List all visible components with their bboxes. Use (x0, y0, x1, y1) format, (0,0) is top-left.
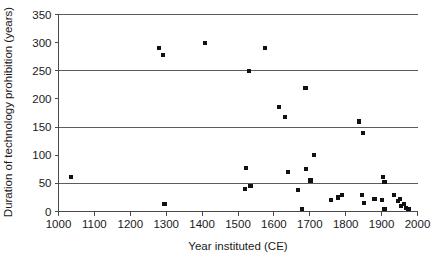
x-tick-label-1800: 1800 (333, 218, 359, 230)
data-point (244, 166, 248, 170)
data-point (392, 193, 396, 197)
data-point (203, 41, 207, 45)
scatter-chart: 050100150200250300350 100011001200130014… (0, 0, 437, 258)
data-point (361, 131, 365, 135)
data-point (69, 175, 73, 179)
axes (59, 15, 418, 212)
data-point (381, 175, 385, 179)
x-tick-label-1900: 1900 (369, 218, 395, 230)
data-points (69, 41, 411, 211)
y-tick-label-150: 150 (32, 121, 51, 133)
data-point (360, 193, 364, 197)
y-tick-label-300: 300 (32, 37, 51, 49)
data-point (248, 184, 252, 188)
x-axis-title: Year instituted (CE) (188, 240, 287, 252)
data-point (300, 207, 304, 211)
data-point (303, 86, 307, 90)
data-point (304, 167, 308, 171)
x-tick-label-1100: 1100 (82, 218, 107, 230)
data-point (161, 53, 165, 57)
data-point (157, 46, 161, 50)
y-tick-label-250: 250 (32, 65, 51, 77)
data-point (308, 178, 312, 182)
x-tick-label-1200: 1200 (118, 218, 144, 230)
y-tick-label-200: 200 (32, 93, 51, 105)
gridlines (59, 15, 418, 184)
data-point (372, 197, 376, 201)
data-point (296, 188, 300, 192)
data-point (263, 46, 267, 50)
data-point (406, 207, 410, 211)
data-point (162, 202, 166, 206)
data-point (340, 193, 344, 197)
y-axis-title: Duration of technology prohibition (year… (2, 7, 14, 217)
x-tick-marks (59, 212, 418, 216)
data-point (243, 187, 247, 191)
y-tick-label-0: 0 (45, 206, 51, 218)
x-tick-label-1700: 1700 (297, 218, 323, 230)
data-point (283, 115, 287, 119)
data-point (380, 198, 384, 202)
data-point (247, 69, 251, 73)
data-point (312, 153, 316, 157)
x-tick-label-1600: 1600 (261, 218, 287, 230)
x-tick-label-1300: 1300 (153, 218, 179, 230)
y-tick-label-50: 50 (39, 177, 52, 189)
y-tick-labels: 050100150200250300350 (32, 9, 51, 218)
x-tick-labels: 1000110012001300140015001600170018001900… (46, 218, 431, 230)
data-point (382, 207, 386, 211)
data-point (402, 202, 406, 206)
data-point (398, 197, 402, 201)
data-point (382, 180, 386, 184)
y-tick-label-100: 100 (32, 149, 51, 161)
data-point (286, 170, 290, 174)
x-tick-label-2000: 2000 (405, 218, 431, 230)
data-point (336, 195, 340, 199)
x-tick-label-1500: 1500 (225, 218, 251, 230)
x-tick-label-1400: 1400 (189, 218, 215, 230)
y-tick-label-350: 350 (32, 9, 51, 21)
data-point (277, 105, 281, 109)
x-tick-label-1000: 1000 (46, 218, 72, 230)
y-tick-marks (55, 15, 59, 212)
data-point (357, 119, 361, 123)
chart-canvas: 050100150200250300350 100011001200130014… (0, 0, 437, 258)
data-point (362, 201, 366, 205)
data-point (329, 198, 333, 202)
